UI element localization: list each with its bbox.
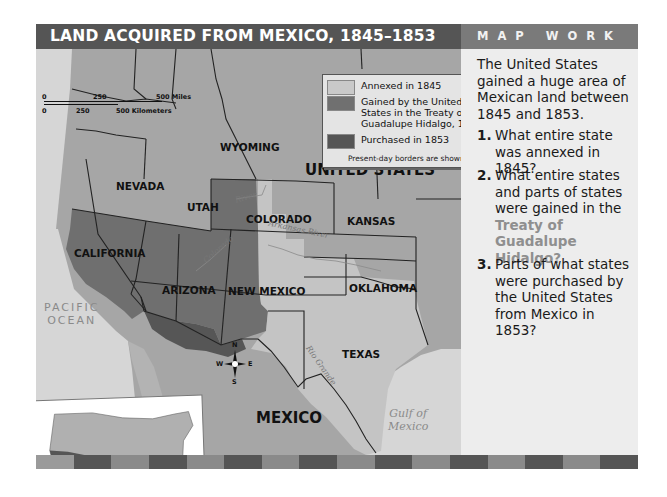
- question-3: 3. Parts of what states were purchased b…: [477, 256, 637, 339]
- label-mexico: MEXICO: [256, 409, 322, 427]
- map-title: LAND ACQUIRED FROM MEXICO, 1845–1853: [36, 24, 461, 49]
- legend-label-purchased: Purchased in 1853: [361, 134, 449, 145]
- stripe-segment: [450, 455, 488, 469]
- stripe-segment: [224, 455, 262, 469]
- label-kansas: KANSAS: [347, 215, 395, 227]
- question-2-text-main: What entire states and parts of states w…: [495, 167, 622, 216]
- stripe-segment: [111, 455, 149, 469]
- legend-label-gained: Gained by the United States in the Treat…: [361, 96, 461, 129]
- question-2: 2. What entire states and parts of state…: [477, 167, 637, 266]
- label-arizona: ARIZONA: [162, 284, 216, 296]
- legend-label-annexed: Annexed in 1845: [361, 80, 441, 91]
- gulf-line2: Mexico: [388, 420, 428, 433]
- label-wyoming: WYOMING: [220, 141, 280, 153]
- compass-s: S: [232, 378, 237, 386]
- stripe-segment: [525, 455, 563, 469]
- stripe-segment: [375, 455, 413, 469]
- stripe-segment: [412, 455, 450, 469]
- pacific-line2: OCEAN: [44, 314, 99, 327]
- label-oklahoma: OKLAHOMA: [349, 282, 417, 294]
- stripe-segment: [337, 455, 375, 469]
- map-work-heading: MAP WORK: [461, 24, 638, 49]
- question-2-text: What entire states and parts of states w…: [495, 167, 637, 266]
- stripe-segment: [74, 455, 112, 469]
- pacific-line1: PACIFIC: [44, 301, 99, 314]
- legend-swatch-gained: [327, 96, 355, 111]
- compass-w: W: [216, 360, 223, 368]
- map-work-panel: The United States gained a huge area of …: [461, 49, 638, 455]
- inset-map: [36, 395, 206, 455]
- compass-e: E: [248, 360, 252, 368]
- label-utah: UTAH: [187, 201, 219, 213]
- decorative-stripe: [36, 455, 638, 469]
- scale-km-end: 500 Kilometers: [116, 107, 172, 115]
- stripe-segment: [600, 455, 638, 469]
- legend-swatch-annexed: [327, 80, 355, 95]
- label-texas: TEXAS: [342, 348, 380, 360]
- label-new-mexico: NEW MEXICO: [228, 285, 305, 297]
- legend: Annexed in 1845 Gained by the United Sta…: [322, 74, 461, 168]
- stripe-segment: [299, 455, 337, 469]
- label-gulf-of-mexico: Gulf of Mexico: [388, 407, 428, 433]
- scale-miles-mid: 250: [93, 93, 107, 101]
- legend-swatch-purchased: [327, 134, 355, 149]
- question-3-number: 3.: [477, 256, 492, 273]
- label-nevada: NEVADA: [116, 180, 164, 192]
- map: N S W E 0 250 500 Miles 0 250 500 Kilome…: [36, 49, 461, 455]
- scale-miles-start: 0: [42, 93, 47, 101]
- stripe-segment: [488, 455, 526, 469]
- stripe-segment: [262, 455, 300, 469]
- question-2-number: 2.: [477, 167, 492, 184]
- legend-note: Present-day borders are shown.: [323, 154, 461, 163]
- stripe-segment: [149, 455, 187, 469]
- compass-n: N: [232, 341, 237, 349]
- question-3-text: Parts of what states were purchased by t…: [495, 256, 637, 339]
- stripe-segment: [563, 455, 601, 469]
- scale-km-mid: 250: [76, 107, 90, 115]
- compass-rose: N S W E: [220, 344, 250, 384]
- label-pacific-ocean: PACIFIC OCEAN: [44, 301, 99, 327]
- label-california: CALIFORNIA: [74, 247, 145, 259]
- stripe-segment: [187, 455, 225, 469]
- scale-km-start: 0: [42, 107, 47, 115]
- stripe-segment: [36, 455, 74, 469]
- question-1-number: 1.: [477, 127, 492, 144]
- scale-miles-end: 500 Miles: [156, 93, 191, 101]
- gulf-line1: Gulf of: [388, 407, 428, 420]
- panel-intro: The United States gained a huge area of …: [477, 56, 637, 122]
